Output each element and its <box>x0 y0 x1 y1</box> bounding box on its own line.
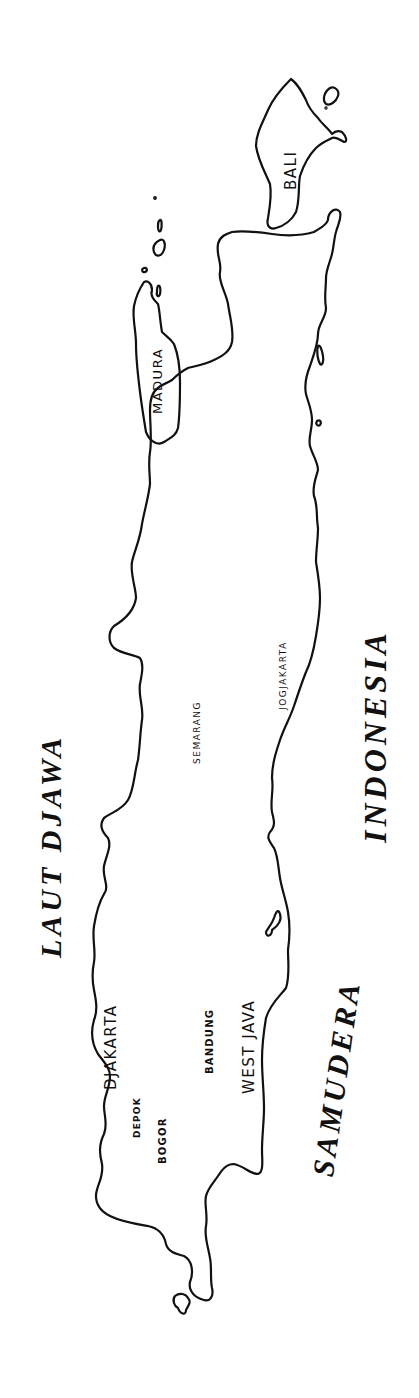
label-indonesia: INDONESIA <box>357 629 394 843</box>
label-west-java: WEST JAVA <box>240 1000 258 1094</box>
label-semarang: SEMARANG <box>192 701 202 764</box>
south-islet <box>316 420 320 425</box>
label-madura: MADURA <box>150 348 165 414</box>
madura-islet-3 <box>153 240 164 256</box>
bali-islet-penida <box>324 87 338 104</box>
nusa-kambangan-island <box>266 911 281 936</box>
madura-islet-4 <box>158 220 162 232</box>
label-djakarta: DJAKARTA <box>102 1005 120 1090</box>
label-depok: DEPOK <box>132 1097 142 1138</box>
madura-islet-1 <box>142 268 147 272</box>
west-tip-islet <box>174 1294 190 1314</box>
label-laut-djawa: LAUT DJAWA <box>34 734 68 958</box>
bali-island-outline <box>256 79 346 229</box>
east-south-islet <box>317 346 323 365</box>
bali-islet-dot <box>325 107 326 108</box>
label-bali: BALI <box>282 151 300 190</box>
madura-islet-5 <box>154 197 156 199</box>
label-jogjakarta: JOGJAKARTA <box>278 641 288 710</box>
java-island-outline <box>92 210 341 1301</box>
label-bandung: BANDUNG <box>204 1009 215 1074</box>
madura-islet-2 <box>157 286 161 297</box>
label-bogor: BOGOR <box>157 1117 168 1164</box>
